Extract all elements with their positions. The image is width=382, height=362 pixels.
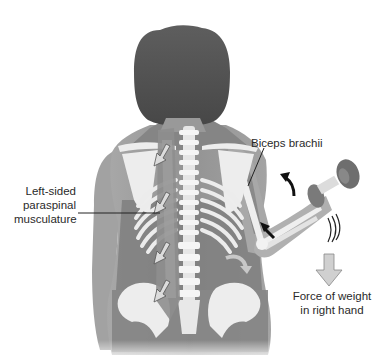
force-label: Force of weight in right hand: [290, 289, 374, 317]
dumbbell: [304, 156, 363, 210]
force-label-line-1: Force of weight: [290, 289, 374, 303]
arm-curl-arrow-icon: [280, 172, 294, 196]
force-label-line-2: in right hand: [290, 303, 374, 317]
paraspinal-label-line-2: paraspinal: [14, 198, 76, 212]
biceps-label: Biceps brachii: [251, 136, 323, 150]
paraspinal-label: Left-sided paraspinal musculature: [14, 184, 76, 226]
paraspinal-label-line-3: musculature: [14, 212, 76, 226]
hair: [134, 25, 230, 125]
weight-force-arrow-icon: [316, 254, 342, 286]
paraspinal-label-line-1: Left-sided: [14, 184, 76, 198]
motion-lines: [328, 214, 340, 242]
